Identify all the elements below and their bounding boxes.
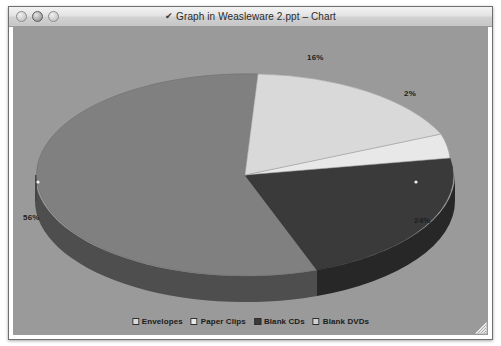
pie-chart-plot[interactable]: 16% 2% 24% 56% Envelopes Paper Clips Bla… bbox=[13, 27, 488, 335]
resize-grip-icon[interactable] bbox=[474, 321, 487, 334]
window-title-bar[interactable]: ✔Graph in Weasleware 2.ppt – Chart bbox=[9, 7, 492, 27]
legend-item-paper-clips[interactable]: Paper Clips bbox=[191, 317, 246, 326]
legend-item-blank-dvds[interactable]: Blank DVDs bbox=[313, 317, 369, 326]
legend-label-blank-cds: Blank CDs bbox=[264, 317, 305, 326]
data-label-paper-clips: 2% bbox=[404, 89, 416, 98]
legend-swatch-blank-cds bbox=[254, 318, 261, 325]
minimize-button[interactable] bbox=[32, 11, 43, 22]
legend-swatch-envelopes bbox=[132, 318, 139, 325]
legend-item-blank-cds[interactable]: Blank CDs bbox=[254, 317, 305, 326]
chart-window[interactable]: ✔Graph in Weasleware 2.ppt – Chart bbox=[8, 6, 493, 340]
legend-item-envelopes[interactable]: Envelopes bbox=[132, 317, 183, 326]
window-title-text: Graph in Weasleware 2.ppt – Chart bbox=[176, 11, 336, 22]
legend-swatch-blank-dvds bbox=[313, 318, 320, 325]
rim-highlight-left-dot bbox=[36, 180, 39, 183]
data-label-envelopes: 16% bbox=[307, 53, 324, 62]
window-title: ✔Graph in Weasleware 2.ppt – Chart bbox=[9, 11, 492, 22]
zoom-button[interactable] bbox=[48, 11, 59, 22]
rim-highlight-right-dot bbox=[414, 180, 417, 183]
pie-chart-svg bbox=[13, 27, 490, 338]
document-check-icon: ✔ bbox=[165, 11, 173, 21]
data-label-blank-dvds: 56% bbox=[23, 213, 40, 222]
legend-label-blank-dvds: Blank DVDs bbox=[323, 317, 369, 326]
window-controls bbox=[16, 11, 59, 22]
close-button[interactable] bbox=[16, 11, 27, 22]
chart-legend[interactable]: Envelopes Paper Clips Blank CDs Blank DV… bbox=[129, 316, 372, 327]
legend-label-paper-clips: Paper Clips bbox=[201, 317, 246, 326]
data-label-blank-cds: 24% bbox=[414, 216, 431, 225]
chart-canvas[interactable]: 16% 2% 24% 56% Envelopes Paper Clips Bla… bbox=[9, 27, 492, 339]
legend-swatch-paper-clips bbox=[191, 318, 198, 325]
legend-label-envelopes: Envelopes bbox=[142, 317, 183, 326]
